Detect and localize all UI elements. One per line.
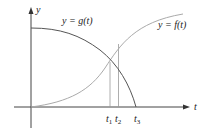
f-curve-label: y = f(t) bbox=[157, 19, 187, 31]
t2-label: t2 bbox=[115, 113, 122, 126]
x-axis-arrow-icon bbox=[183, 105, 190, 110]
t1-label: t1 bbox=[106, 113, 113, 126]
g-curve-label: y = g(t) bbox=[61, 15, 93, 27]
graph-canvas: y t y = g(t) y = f(t) t1 t2 t3 bbox=[0, 0, 210, 136]
t3-label: t3 bbox=[134, 113, 141, 126]
y-axis-label: y bbox=[35, 4, 41, 15]
t-axis-label: t bbox=[194, 101, 197, 112]
y-axis-arrow-icon bbox=[29, 7, 34, 14]
g-curve bbox=[31, 28, 136, 107]
